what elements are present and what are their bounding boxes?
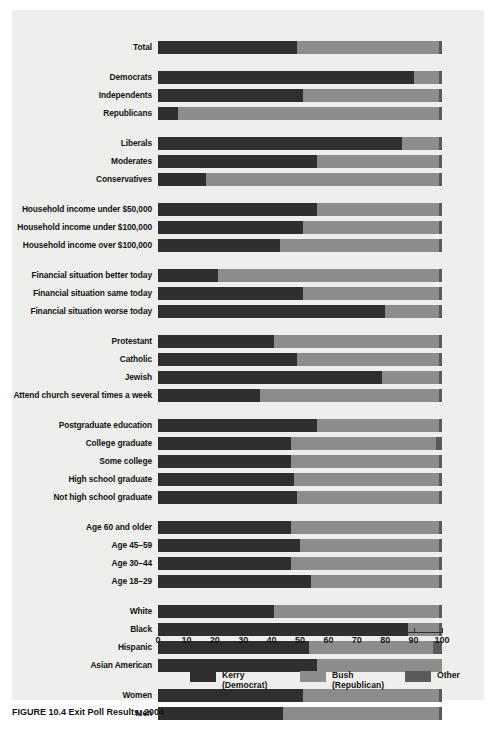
bar-segment-bush	[260, 389, 439, 402]
bar-segment-other	[439, 491, 442, 504]
bar-segment-other	[439, 557, 442, 570]
bar-segment-other	[439, 239, 442, 252]
legend-label-bush: Bush(Republican)	[332, 670, 384, 690]
bar-row: Age 18–29	[12, 575, 484, 588]
bar-row-label: Not high school graduate	[0, 491, 152, 504]
bar-segment-other	[439, 305, 442, 318]
bar-row-label: Liberals	[0, 137, 152, 150]
legend-swatch-bush	[300, 671, 326, 682]
bar-track	[158, 221, 442, 234]
bar-track	[158, 521, 442, 534]
bar-segment-other	[439, 71, 442, 84]
bar-segment-kerry	[158, 521, 291, 534]
bar-segment-other	[439, 473, 442, 486]
bar-row: Jewish	[12, 371, 484, 384]
bar-track	[158, 41, 442, 54]
bar-segment-bush	[274, 605, 439, 618]
bar-segment-other	[439, 455, 442, 468]
bar-segment-other	[439, 173, 442, 186]
x-axis-tick-label: 40	[267, 635, 277, 645]
stacked-bar-chart: TotalDemocratsIndependentsRepublicansLib…	[12, 10, 484, 700]
bar-row: Total	[12, 41, 484, 54]
bar-segment-kerry	[158, 71, 414, 84]
bar-row: Independents	[12, 89, 484, 102]
bar-row: Moderates	[12, 155, 484, 168]
bar-segment-other	[439, 521, 442, 534]
bar-row-label: High school graduate	[0, 473, 152, 486]
bar-segment-kerry	[158, 305, 385, 318]
bar-track	[158, 473, 442, 486]
bar-track	[158, 287, 442, 300]
bar-segment-kerry	[158, 557, 291, 570]
bar-segment-bush	[317, 203, 439, 216]
bar-segment-other	[439, 539, 442, 552]
legend-item-kerry: Kerry(Democrat)	[190, 670, 267, 690]
bar-track	[158, 173, 442, 186]
bar-segment-kerry	[158, 455, 291, 468]
bar-track	[158, 455, 442, 468]
bar-row: Democrats	[12, 71, 484, 84]
bar-track	[158, 491, 442, 504]
bar-row: Household income under $100,000	[12, 221, 484, 234]
bar-track	[158, 575, 442, 588]
bar-track	[158, 89, 442, 102]
bar-row: Household income over $100,000	[12, 239, 484, 252]
legend-swatch-other	[405, 671, 431, 682]
bar-track	[158, 389, 442, 402]
bar-row: Age 30–44	[12, 557, 484, 570]
bar-row-label: Independents	[0, 89, 152, 102]
bar-segment-kerry	[158, 89, 303, 102]
bar-row: Financial situation worse today	[12, 305, 484, 318]
bar-track	[158, 71, 442, 84]
bar-row-label: White	[0, 605, 152, 618]
bar-segment-other	[439, 107, 442, 120]
bar-segment-bush	[291, 437, 436, 450]
bar-row-label: Moderates	[0, 155, 152, 168]
bar-row-label: Financial situation worse today	[0, 305, 152, 318]
bar-row: White	[12, 605, 484, 618]
bar-row-label: Attend church several times a week	[0, 389, 152, 402]
bar-row: Postgraduate education	[12, 419, 484, 432]
bar-row-label: Republicans	[0, 107, 152, 120]
legend-item-other: Other	[405, 670, 460, 682]
bar-row: Financial situation same today	[12, 287, 484, 300]
bar-segment-bush	[294, 473, 439, 486]
x-axis-tick-label: 10	[181, 635, 191, 645]
bar-row: Liberals	[12, 137, 484, 150]
bar-segment-other	[439, 269, 442, 282]
bar-segment-kerry	[158, 437, 291, 450]
bar-segment-kerry	[158, 107, 178, 120]
bar-segment-kerry	[158, 335, 274, 348]
bar-segment-kerry	[158, 239, 280, 252]
bar-row-label: Financial situation same today	[0, 287, 152, 300]
bar-segment-bush	[303, 89, 439, 102]
bar-row: Republicans	[12, 107, 484, 120]
x-axis-tick	[414, 628, 415, 633]
bar-track	[158, 239, 442, 252]
bar-segment-bush	[274, 335, 439, 348]
x-axis-tick-label: 70	[352, 635, 362, 645]
bar-segment-bush	[297, 41, 439, 54]
bar-segment-kerry	[158, 155, 317, 168]
bar-segment-kerry	[158, 419, 317, 432]
bar-segment-bush	[178, 107, 439, 120]
x-axis-tick-label: 20	[210, 635, 220, 645]
legend-label-kerry: Kerry(Democrat)	[222, 670, 267, 690]
bar-segment-kerry	[158, 389, 260, 402]
bar-segment-other	[439, 335, 442, 348]
bar-row-label: Financial situation better today	[0, 269, 152, 282]
bar-row: Catholic	[12, 353, 484, 366]
bar-segment-bush	[297, 491, 439, 504]
bar-segment-other	[439, 419, 442, 432]
bar-row-label: Hispanic	[0, 641, 152, 654]
bar-segment-kerry	[158, 41, 297, 54]
bar-track	[158, 137, 442, 150]
bar-row: Financial situation better today	[12, 269, 484, 282]
bar-segment-other	[439, 389, 442, 402]
bar-row-label: College graduate	[0, 437, 152, 450]
bar-track	[158, 203, 442, 216]
bar-track	[158, 335, 442, 348]
bar-segment-kerry	[158, 203, 317, 216]
bar-segment-kerry	[158, 269, 218, 282]
bar-segment-bush	[300, 539, 439, 552]
